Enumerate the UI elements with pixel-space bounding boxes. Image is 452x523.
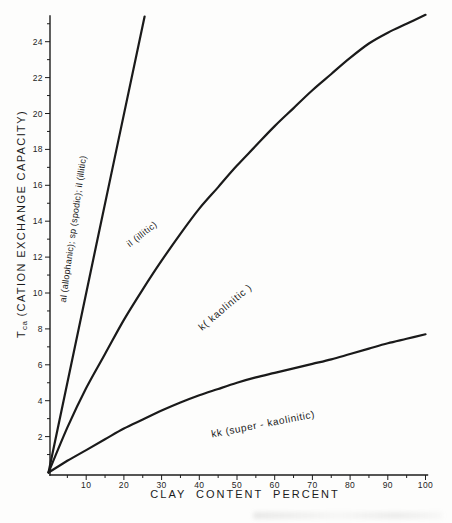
curves-layer [49,15,426,473]
y-tick-label: 12 [33,252,43,262]
axes-layer: 1020304050607080901002468101214161820222… [33,16,433,490]
y-tick-label: 8 [38,324,43,334]
y-axis-title-symbol: T [15,330,27,338]
y-tick-label: 24 [33,37,43,47]
x-tick-label: 20 [119,480,129,490]
scan-artifact [253,512,443,519]
curve-il-curve [49,15,426,473]
x-tick-label: 100 [418,480,433,490]
x-axis-title: CLAY CONTENT PERCENT [150,488,339,500]
y-tick-label: 10 [33,288,43,298]
y-axis-title: Tca(CATION EXCHANGE CAPACITY) [15,110,29,338]
y-tick-label: 2 [38,432,43,442]
cec-vs-clay-figure: 1020304050607080901002468101214161820222… [0,0,452,523]
x-tick-label: 10 [81,480,91,490]
y-tick-label: 14 [33,216,43,226]
y-axis-title-subscript: ca [20,320,29,329]
y-tick-label: 18 [33,144,43,154]
y-tick-label: 20 [33,109,43,119]
x-tick-label: 90 [383,480,393,490]
y-tick-label: 4 [38,396,43,406]
y-tick-label: 22 [33,73,43,83]
y-tick-label: 6 [38,360,43,370]
y-axis-title-text: (CATION EXCHANGE CAPACITY) [15,110,27,317]
x-tick-label: 80 [345,480,355,490]
y-tick-label: 16 [33,180,43,190]
